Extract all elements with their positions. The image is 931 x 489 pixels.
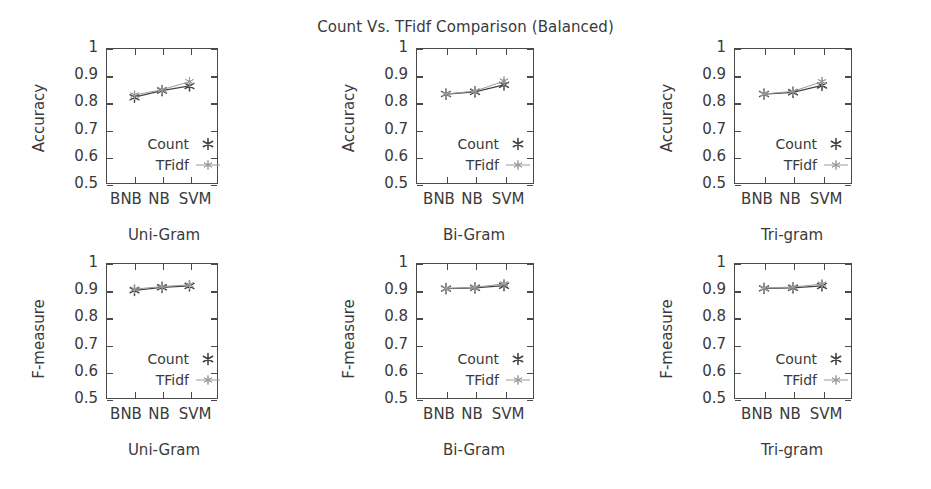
x-axis-tick-top	[163, 49, 164, 55]
y-tick-label: 0.6	[54, 149, 98, 164]
y-tick-label: 0.7	[54, 337, 98, 352]
y-tick-label: 1	[364, 255, 408, 270]
x-tick-nb: NB	[145, 190, 173, 208]
y-axis-label: Accuracy	[658, 50, 676, 186]
x-axis-tick-top	[476, 264, 477, 270]
legend-marker-count-icon	[823, 351, 849, 367]
y-axis-tick	[107, 400, 113, 401]
y-axis-tick	[107, 318, 113, 319]
y-tick-label: 0.5	[682, 176, 726, 191]
y-tick-label: 1	[682, 255, 726, 270]
y-tick-label: 0.7	[54, 122, 98, 137]
legend: Count TFidf	[117, 348, 221, 390]
x-axis-tick	[135, 392, 136, 398]
y-axis-tick-right	[527, 103, 533, 104]
legend-item-tfidf: TFidf	[117, 154, 221, 175]
y-axis-tick-right	[527, 373, 533, 374]
x-axis-tick	[163, 177, 164, 183]
y-axis-tick	[417, 131, 423, 132]
y-tick-labels: 10.90.80.70.60.5	[52, 40, 98, 176]
legend-marker-count-icon	[823, 136, 849, 152]
y-tick-label: 0.6	[54, 364, 98, 379]
y-axis-tick	[735, 373, 741, 374]
y-axis-label: F-measure	[658, 271, 676, 407]
subplot-fmeasure-tri-gram: F-measure 10.90.80.70.60.5 Count TFidf B…	[640, 255, 930, 470]
y-axis-tick-right	[211, 131, 217, 132]
x-axis-tick	[476, 392, 477, 398]
y-axis-tick	[735, 49, 741, 50]
y-axis-tick-right	[845, 185, 851, 186]
y-axis-tick	[417, 318, 423, 319]
x-tick-bnb: BNB	[738, 405, 776, 423]
y-axis-tick	[417, 346, 423, 347]
legend-label-count: Count	[775, 351, 817, 367]
x-tick-svm: SVM	[173, 190, 217, 208]
legend-item-count: Count	[117, 348, 221, 369]
x-axis-tick-top	[824, 264, 825, 270]
x-axis-tick	[447, 392, 448, 398]
y-axis-tick-right	[845, 103, 851, 104]
legend-item-count: Count	[745, 133, 849, 154]
y-tick-label: 0.6	[364, 364, 408, 379]
legend-label-tfidf: TFidf	[466, 157, 499, 173]
plot-frame: Count TFidf	[106, 263, 218, 399]
y-axis-tick	[107, 346, 113, 347]
y-axis-tick	[107, 49, 113, 50]
y-tick-label: 0.9	[682, 67, 726, 82]
legend-label-count: Count	[457, 136, 499, 152]
y-axis-tick-right	[211, 49, 217, 50]
y-axis-tick	[735, 131, 741, 132]
y-axis-tick	[735, 76, 741, 77]
y-tick-labels: 10.90.80.70.60.5	[362, 40, 408, 176]
y-axis-tick	[417, 76, 423, 77]
plot-frame: Count TFidf	[734, 48, 852, 184]
y-axis-tick	[417, 373, 423, 374]
y-axis-tick	[417, 400, 423, 401]
y-tick-label: 0.7	[682, 337, 726, 352]
legend-label-tfidf: TFidf	[156, 157, 189, 173]
x-axis-tick-top	[163, 264, 164, 270]
x-axis-tick	[447, 177, 448, 183]
x-tick-labels: BNBNBSVM	[106, 190, 218, 208]
subplot-accuracy-tri-gram: Accuracy 10.90.80.70.60.5 Count TFidf BN…	[640, 40, 930, 255]
y-tick-label: 0.7	[364, 337, 408, 352]
x-axis-tick-top	[765, 264, 766, 270]
x-tick-nb: NB	[458, 190, 486, 208]
y-axis-label: F-measure	[30, 271, 48, 407]
y-axis-tick-right	[211, 400, 217, 401]
y-tick-label: 0.5	[54, 391, 98, 406]
y-tick-label: 0.8	[54, 309, 98, 324]
y-axis-tick-right	[845, 318, 851, 319]
y-axis-tick-right	[845, 291, 851, 292]
legend-marker-count-icon	[195, 136, 221, 152]
legend-item-count: Count	[427, 348, 531, 369]
x-tick-labels: BNBNBSVM	[416, 405, 534, 423]
y-axis-tick-right	[845, 400, 851, 401]
y-tick-label: 1	[364, 40, 408, 55]
figure-title: Count Vs. TFidf Comparison (Balanced)	[0, 18, 931, 36]
x-tick-svm: SVM	[486, 405, 530, 423]
x-axis-tick	[765, 177, 766, 183]
y-tick-label: 0.9	[364, 282, 408, 297]
y-tick-label: 0.9	[682, 282, 726, 297]
y-axis-tick-right	[845, 373, 851, 374]
x-axis-tick	[506, 392, 507, 398]
y-tick-label: 1	[682, 40, 726, 55]
x-axis-tick-top	[191, 49, 192, 55]
y-axis-tick-right	[211, 291, 217, 292]
legend-marker-count-icon	[505, 136, 531, 152]
x-axis-label: Tri-gram	[694, 441, 890, 459]
x-tick-bnb: BNB	[738, 190, 776, 208]
subplot-fmeasure-bi-gram: F-measure 10.90.80.70.60.5 Count TFidf B…	[322, 255, 612, 470]
x-tick-svm: SVM	[173, 405, 217, 423]
y-axis-tick	[107, 264, 113, 265]
x-axis-tick-top	[794, 264, 795, 270]
legend-label-count: Count	[457, 351, 499, 367]
y-axis-tick-right	[845, 49, 851, 50]
legend: Count TFidf	[427, 133, 531, 175]
y-tick-labels: 10.90.80.70.60.5	[52, 255, 98, 391]
y-tick-label: 1	[54, 255, 98, 270]
x-tick-labels: BNBNBSVM	[734, 190, 852, 208]
y-tick-labels: 10.90.80.70.60.5	[680, 255, 726, 391]
y-tick-label: 0.6	[364, 149, 408, 164]
